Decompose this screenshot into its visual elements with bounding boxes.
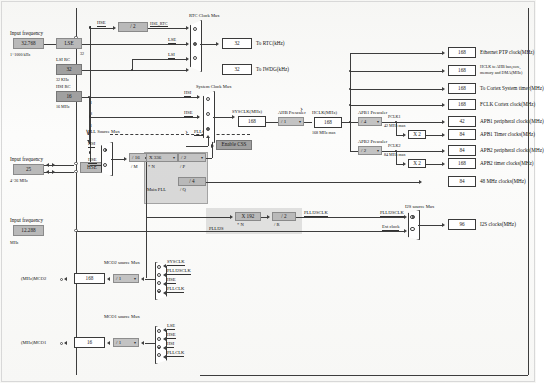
ahb-out1-label: HCLK to AHB bus,core, — [480, 65, 521, 69]
mco2-value: 168 — [74, 273, 105, 284]
apb2-prescaler-title: APB2 Prescaler — [358, 140, 387, 145]
plli2s-r-divider[interactable]: / 2 — [272, 212, 296, 221]
mco2-input-sysclk: SYSCLK — [167, 260, 185, 266]
pll-p-divider[interactable]: / 2 ▾ — [178, 153, 206, 162]
ahb-prescaler[interactable]: / 1 ▾ — [278, 117, 304, 126]
mco1-radio-pllclk[interactable] — [157, 353, 161, 357]
iwdg-out-label: To IWDG(kHz) — [256, 67, 289, 72]
ahb-out2-label: To Cortex System timer(MHz) — [480, 86, 544, 91]
mco1-value: 16 — [74, 337, 105, 348]
mco1-radio-hse[interactable] — [157, 337, 161, 341]
rtc-out-value: 32 — [222, 38, 252, 49]
lsi-unit: 32 KHz — [56, 78, 69, 82]
rtc-hse-div-out-wire — [148, 28, 187, 29]
chevron-down-icon-apb2[interactable]: ▾ — [374, 148, 381, 153]
ahb-out0-value: 168 — [448, 47, 476, 58]
pll-p-out-wire — [206, 158, 212, 159]
sysmux-radio-hsi[interactable] — [206, 97, 210, 101]
pll-q-divider[interactable]: / 4 — [178, 177, 206, 186]
lse-range-label: 1~1000 kHz — [10, 53, 30, 57]
apb1-periph-label: APB1 peripheral clocks(MHz) — [480, 119, 544, 124]
mco2-divider[interactable]: / 1 ▾ — [113, 274, 139, 283]
hclk-label: HCLK(MHz) — [312, 111, 337, 116]
mco2-div-arrow — [107, 277, 110, 281]
chevron-down-icon-ahb[interactable]: ▾ — [296, 119, 303, 124]
rtc-hse-rtc-label: HSE_RTC — [150, 22, 168, 27]
sysmux-radio-hse[interactable] — [206, 112, 210, 116]
system-clock-mux-title: System Clock Mux — [196, 85, 231, 90]
rtc-mux-radio-lse[interactable] — [193, 42, 197, 46]
mco1-radio-hsi[interactable] — [157, 345, 161, 349]
mco2-radio-plli2sclk[interactable] — [157, 273, 161, 277]
rtc-hse-divider[interactable]: / 2 — [118, 22, 148, 32]
apb2-timer-value: 168 — [448, 158, 476, 169]
rtc-hse-tap-label: HSE — [97, 21, 106, 27]
apb2-timer-multiplier: X 2 — [408, 159, 426, 168]
mco2-radio-hse[interactable] — [157, 281, 161, 285]
apb2-timer-branch — [396, 151, 397, 164]
lsi-out-wire — [82, 70, 187, 71]
plli2s-n-multiplier[interactable]: X 192 — [235, 212, 261, 221]
apb2-prescaler-value: / 2 — [361, 148, 374, 153]
chevron-down-icon-mco2[interactable]: ▾ — [131, 276, 138, 281]
mhz48-value: 84 — [448, 176, 476, 187]
right-frame-line-lower — [528, 248, 529, 375]
hclk-value: 168 — [314, 117, 342, 128]
mco2-in2-arrow — [163, 282, 166, 286]
iwdg-out-value: 32 — [222, 64, 252, 75]
lse-divider-note: 32 — [80, 52, 84, 56]
i2s-mux-out-wire — [418, 225, 443, 226]
mco1-divider[interactable]: / 1 ▾ — [113, 338, 139, 347]
hse-input-frequency-value[interactable]: 25 — [13, 164, 44, 175]
apb1-prescaler[interactable]: / 4 ▾ — [358, 117, 382, 126]
chevron-down-icon-mco1[interactable]: ▾ — [131, 340, 138, 345]
mco2-radio-sysclk[interactable] — [157, 265, 161, 269]
hse-pin-arrow-top2 — [52, 163, 55, 167]
enable-css-button[interactable]: Enable CSS — [216, 140, 252, 150]
apb1-timer-value: 84 — [448, 129, 476, 140]
hse-trunk-dot-pll — [89, 151, 91, 153]
rtc-mux-radio-lsi[interactable] — [193, 56, 197, 60]
mco1-div-arrow — [107, 341, 110, 345]
i2s-mux-radio-extclock[interactable] — [410, 227, 414, 231]
hse-to-rtcdiv-wire — [90, 28, 98, 29]
pll-source-hse-label: HSE — [88, 158, 97, 164]
lse-rtcmux-arrow — [186, 42, 189, 46]
lse-input-frequency-value[interactable]: 32.768 — [13, 38, 44, 49]
pll-n-multiplier[interactable]: X 336 ▾ — [146, 153, 178, 162]
ahb-out1-label2: memory and DMA(MHz) — [480, 71, 522, 75]
sysclk-label: SYSCLK(MHz) — [232, 110, 262, 115]
hse-input-frequency-label: Input frequency — [10, 157, 43, 162]
hse-pin-arrow-top — [46, 163, 49, 167]
i2s-mux-radio-plli2sclk[interactable] — [410, 215, 414, 219]
hsi-unit: 16 MHz — [56, 105, 70, 109]
pll-mux-out-wire — [111, 159, 125, 160]
mco1-input-lse: LSE — [167, 324, 175, 330]
chevron-down-icon-apb1[interactable]: ▾ — [374, 119, 381, 124]
apb2-periph-value: 84 — [448, 145, 476, 156]
mco2-input-pllclk: PLLCLK — [167, 287, 184, 293]
ext-clock-label: Ext clock — [382, 225, 399, 231]
ahb-out1-dot — [349, 70, 351, 72]
chevron-down-icon-p[interactable]: ▾ — [198, 155, 205, 160]
lse-block[interactable]: LSE — [56, 38, 82, 49]
ahb-prescaler-value: / 1 — [281, 119, 296, 124]
rtc-hse-mux-arrow — [186, 26, 189, 30]
i2s-input-frequency-value[interactable]: 12.288 — [13, 225, 44, 236]
mco2-radio-pllclk[interactable] — [157, 289, 161, 293]
rtc-hse-div-arrow — [113, 26, 116, 30]
mco1-in3-arrow — [163, 355, 166, 359]
sysmux-select-stem — [208, 138, 209, 146]
chevron-down-icon-n[interactable]: ▾ — [170, 155, 177, 160]
sysmux-radio-pllclk[interactable] — [206, 127, 210, 131]
rtc-mux-radio-hse[interactable] — [193, 27, 197, 31]
mco1-radio-lse[interactable] — [157, 329, 161, 333]
lsi-branch-to-mux — [132, 59, 187, 60]
pll-source-mux-guide — [110, 134, 250, 135]
apb2-prescaler[interactable]: / 2 ▾ — [358, 146, 382, 155]
ahb-out3-arrow — [442, 103, 445, 107]
ahb-out-wire — [304, 122, 312, 123]
ahb-out2-value: 168 — [448, 83, 476, 94]
ahb-out2-dot — [349, 88, 351, 90]
right-frame-line — [528, 8, 529, 248]
